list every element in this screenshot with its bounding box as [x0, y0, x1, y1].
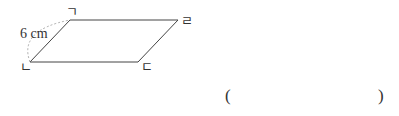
vertex-label-top-left: ㄱ	[66, 5, 78, 18]
answer-close-paren: )	[378, 86, 384, 106]
answer-blank[interactable]	[240, 86, 370, 106]
vertex-label-bottom-left: ㄴ	[20, 60, 32, 73]
vertex-label-top-right: ㄹ	[181, 14, 193, 27]
answer-open-paren: (	[225, 86, 231, 106]
parallelogram	[30, 20, 178, 62]
vertex-label-bottom-right: ㄷ	[141, 60, 153, 73]
side-length-label: 6 cm	[20, 27, 48, 41]
